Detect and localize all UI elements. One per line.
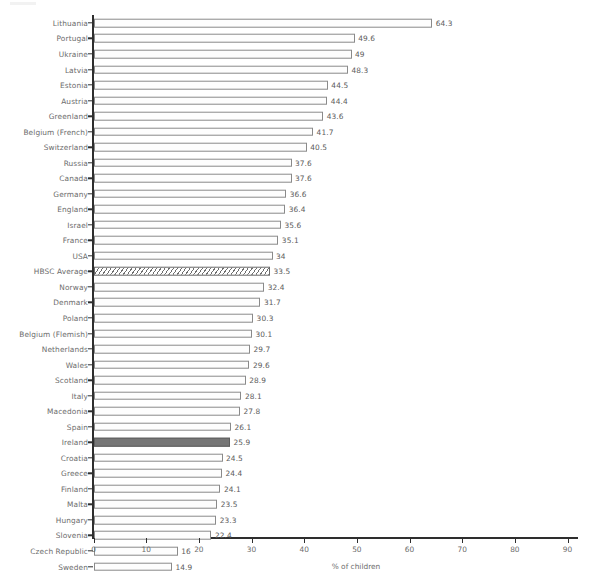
bar[interactable] (94, 500, 218, 509)
bar-value-label: 26.1 (234, 422, 251, 431)
category-label: Slovenia (56, 531, 88, 540)
bar[interactable] (94, 407, 240, 416)
bar-value-label: 24.1 (224, 484, 241, 493)
bar[interactable] (94, 189, 287, 198)
bar[interactable] (94, 469, 223, 478)
bar[interactable] (94, 298, 261, 307)
y-axis-tick (88, 178, 93, 179)
bar[interactable] (94, 267, 270, 276)
bar-value-label: 41.7 (317, 127, 334, 136)
y-axis-tick (88, 209, 93, 210)
bar-row: England36.4 (0, 202, 598, 218)
bar-value-label: 40.5 (310, 143, 327, 152)
bar[interactable] (94, 531, 212, 540)
y-axis-tick (88, 535, 93, 536)
bar[interactable] (94, 391, 242, 400)
y-axis-tick (88, 22, 93, 23)
bar-value-label: 24.5 (226, 453, 243, 462)
bar[interactable] (94, 547, 178, 556)
x-axis-tick-label: 80 (510, 545, 519, 554)
bar[interactable] (94, 252, 273, 261)
bar[interactable] (94, 143, 307, 152)
bar-row: Poland30.3 (0, 310, 598, 326)
bar[interactable] (94, 19, 433, 28)
bar[interactable] (94, 329, 253, 338)
bar[interactable] (94, 283, 265, 292)
category-label: Croatia (61, 453, 88, 462)
bar[interactable] (94, 345, 250, 354)
bar[interactable] (94, 516, 217, 525)
y-axis-tick (88, 38, 93, 39)
bar-row: Israel35.6 (0, 217, 598, 233)
x-axis-tick-label: 40 (299, 545, 308, 554)
category-label: Ireland (62, 438, 88, 447)
bar[interactable] (94, 112, 324, 121)
bar-value-label: 33.5 (273, 267, 290, 276)
bar[interactable] (94, 221, 281, 230)
y-axis-tick (88, 146, 93, 147)
bar-row: USA34 (0, 248, 598, 264)
bar-row: Lithuania64.3 (0, 15, 598, 31)
y-axis-tick (88, 395, 93, 396)
bar-value-label: 24.4 (226, 469, 243, 478)
y-axis-tick (88, 317, 93, 318)
y-axis-tick (88, 100, 93, 101)
x-axis-tick-label: 50 (352, 545, 361, 554)
y-axis-tick (88, 333, 93, 334)
bar-row: Scotland28.9 (0, 372, 598, 388)
bar[interactable] (94, 438, 230, 447)
bar[interactable] (94, 376, 246, 385)
category-label: Austria (61, 96, 88, 105)
x-axis-tick-label: 70 (457, 545, 466, 554)
bar[interactable] (94, 50, 352, 59)
bar[interactable] (94, 360, 250, 369)
y-axis-tick (88, 504, 93, 505)
bar-row: Portugal49.6 (0, 31, 598, 47)
bar[interactable] (94, 236, 279, 245)
y-axis-tick (88, 473, 93, 474)
bar-value-label: 23.5 (221, 500, 238, 509)
bar-chart: Lithuania64.3Portugal49.6Ukraine49Latvia… (0, 0, 598, 582)
x-axis-tick-label: 10 (141, 545, 150, 554)
x-axis-tick (199, 538, 200, 543)
bar[interactable] (94, 34, 355, 43)
bar-row: Finland24.1 (0, 481, 598, 497)
bar[interactable] (94, 314, 254, 323)
bar-value-label: 29.6 (253, 360, 270, 369)
bar-value-label: 28.1 (245, 391, 262, 400)
bar[interactable] (94, 65, 348, 74)
bar[interactable] (94, 205, 286, 214)
category-label: Greenland (49, 112, 88, 121)
bar[interactable] (94, 453, 223, 462)
y-axis-tick (88, 442, 93, 443)
bar[interactable] (94, 174, 292, 183)
category-label: HBSC Average (34, 267, 88, 276)
bar[interactable] (94, 127, 314, 136)
bar[interactable] (94, 485, 221, 494)
bar-row: Greece24.4 (0, 466, 598, 482)
x-axis-title: % of children (0, 562, 598, 571)
bar-value-label: 48.3 (351, 65, 368, 74)
bar-row: Austria44.4 (0, 93, 598, 109)
bar-value-label: 23.3 (220, 515, 237, 524)
y-axis-tick (88, 379, 93, 380)
bar-value-label: 36.4 (289, 205, 306, 214)
y-axis-tick (88, 115, 93, 116)
bar[interactable] (94, 96, 328, 105)
bar[interactable] (94, 158, 292, 167)
bar[interactable] (94, 422, 231, 431)
bar-value-label: 49.6 (358, 34, 375, 43)
category-label: Netherlands (42, 345, 88, 354)
category-label: Finland (61, 484, 88, 493)
bar-row: Hungary23.3 (0, 512, 598, 528)
bar-value-label: 49 (355, 50, 365, 59)
bar-value-label: 16 (181, 546, 191, 555)
bar-value-label: 28.9 (249, 376, 266, 385)
category-label: Malta (67, 500, 88, 509)
bar-row: HBSC Average33.5 (0, 264, 598, 280)
bar-row: Belgium (French)41.7 (0, 124, 598, 140)
category-label: Ukraine (59, 50, 88, 59)
x-axis-tick (252, 538, 253, 543)
y-axis-tick (88, 519, 93, 520)
bar[interactable] (94, 81, 328, 90)
